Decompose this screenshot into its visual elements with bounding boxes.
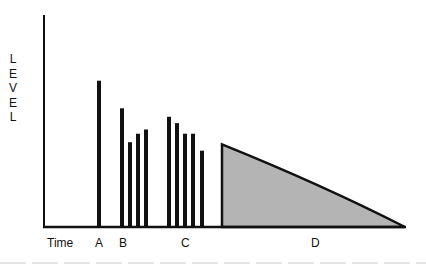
bar-b — [128, 142, 132, 227]
category-label-d: D — [311, 236, 320, 250]
x-axis-label: Time — [47, 236, 73, 250]
chart-canvas — [0, 0, 426, 265]
area-d-decay — [222, 144, 405, 227]
ylabel-letter: E — [6, 67, 20, 82]
bar-b — [120, 108, 124, 227]
bar-c — [167, 117, 171, 227]
ylabel-letter: L — [6, 110, 20, 125]
bar-a — [97, 81, 101, 227]
category-label-c: C — [181, 236, 190, 250]
bars-group — [97, 81, 204, 227]
ylabel-letter: L — [6, 52, 20, 67]
ylabel-letter: E — [6, 96, 20, 111]
bar-c — [175, 123, 179, 227]
bar-b — [144, 129, 148, 227]
bottom-dashed-divider — [0, 262, 426, 264]
y-axis-label: L E V E L — [6, 52, 20, 125]
bar-c — [183, 134, 187, 227]
bar-c — [191, 134, 195, 227]
bar-c — [200, 151, 204, 227]
category-label-b: B — [119, 236, 127, 250]
ylabel-letter: V — [6, 81, 20, 96]
bar-b — [136, 134, 140, 227]
category-label-a: A — [95, 236, 103, 250]
